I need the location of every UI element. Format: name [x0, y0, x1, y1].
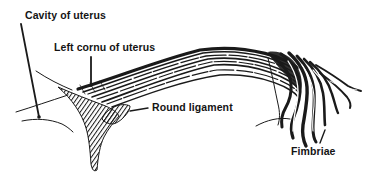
cavity-leader-line — [21, 24, 39, 117]
label-cavity-of-uterus: Cavity of uterus — [25, 10, 106, 22]
cavity-leader-dot — [37, 115, 41, 119]
uterus-outline-curves — [16, 71, 73, 132]
round-ligament-leader-line — [130, 108, 148, 111]
label-left-cornu-of-uterus: Left cornu of uterus — [54, 42, 155, 54]
fimbriae-leader-line — [320, 130, 325, 143]
label-round-ligament: Round ligament — [152, 102, 233, 114]
label-fimbriae: Fimbriae — [291, 146, 336, 158]
fallopian-tube-drawing — [78, 48, 298, 107]
anatomical-figure: Cavity of uterus Left cornu of uterus Ro… — [0, 0, 365, 175]
